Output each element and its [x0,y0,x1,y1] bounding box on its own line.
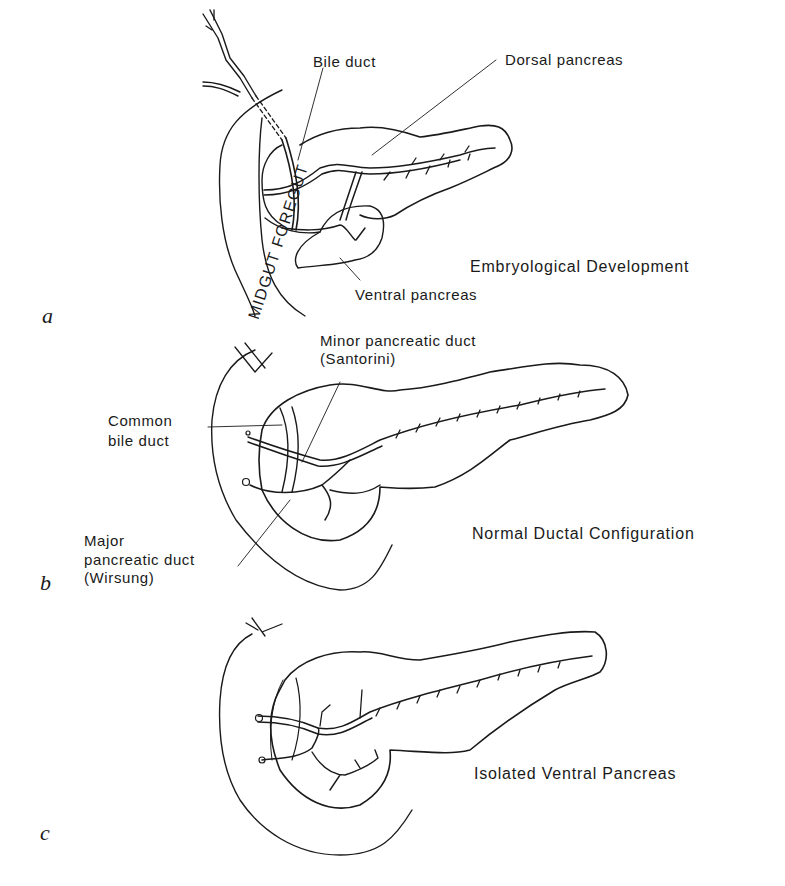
caption-normal-ductal-configuration: Normal Ductal Configuration [472,525,695,543]
label-dorsal-pancreas: Dorsal pancreas [505,51,623,68]
caption-embryological-development: Embryological Development [470,258,689,276]
caption-isolated-ventral-pancreas: Isolated Ventral Pancreas [474,765,676,783]
label-minor-duct-line2: (Santorini) [320,350,396,367]
panel-letter-c: c [40,820,50,846]
panel-letter-a: a [42,303,53,329]
label-ventral-pancreas: Ventral pancreas [355,286,477,303]
label-bile-duct: Bile duct [313,53,376,70]
label-major-duct-line3: (Wirsung) [84,569,154,586]
label-major-duct-line1: Major [84,532,125,549]
panel-b-drawing [208,343,628,590]
label-common-bile-line2: bile duct [108,432,169,449]
label-common-bile-line1: Common [108,412,172,429]
panel-c-drawing [220,618,607,855]
panel-letter-b: b [40,570,51,596]
label-minor-duct-line1: Minor pancreatic duct [320,332,476,349]
label-major-duct-line2: pancreatic duct [84,551,195,568]
